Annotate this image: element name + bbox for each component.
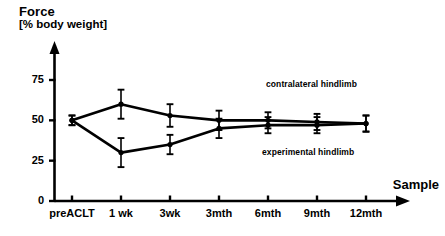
y-tick-label: 75 [10,73,44,85]
data-point-marker [118,150,123,155]
data-point-marker [363,121,368,126]
y-tick-label: 25 [10,154,44,166]
data-point-marker [118,102,123,107]
annotation-experimental: experimental hindlimb [262,147,354,157]
data-point-marker [314,123,319,128]
data-point-marker [167,113,172,118]
x-axis-title: Sample [393,177,439,192]
chart-figure: Force [% body weight] 0255075 preACLT1 w… [0,0,445,236]
data-point-marker [167,142,172,147]
data-point-marker [265,123,270,128]
data-point-marker [216,126,221,131]
y-tick-label: 50 [10,113,44,125]
y-axis-arrowhead [50,41,60,54]
chart-plot-area [0,0,445,236]
data-point-marker [69,118,74,123]
x-axis-arrowhead [396,196,410,207]
x-tick-label: 12mth [326,207,406,219]
annotation-contralateral: contralateral hindlimb [266,79,357,89]
y-tick-label: 0 [10,194,44,206]
